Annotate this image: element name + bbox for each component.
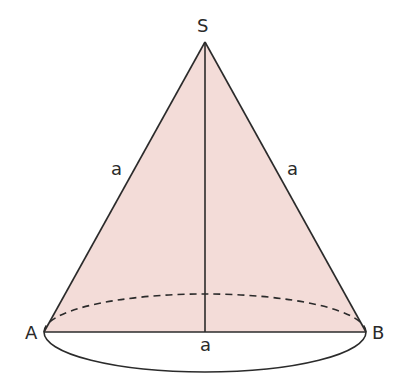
- label-point-a: A: [25, 324, 37, 342]
- label-base: a: [200, 336, 211, 354]
- cone-diagram: S A B a a a: [0, 0, 400, 384]
- label-apex-s: S: [197, 17, 208, 35]
- label-left-slant: a: [111, 160, 122, 178]
- label-point-b: B: [372, 324, 384, 342]
- label-right-slant: a: [287, 160, 298, 178]
- cone-figure: [0, 0, 400, 384]
